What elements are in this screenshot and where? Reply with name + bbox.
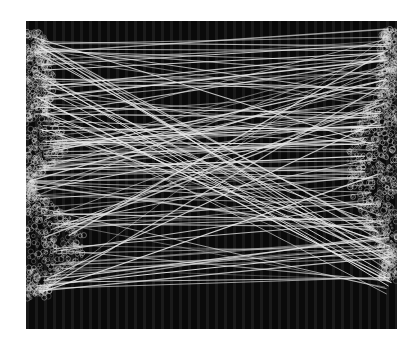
feature-match-figure — [26, 21, 397, 329]
match-canvas — [26, 21, 397, 329]
